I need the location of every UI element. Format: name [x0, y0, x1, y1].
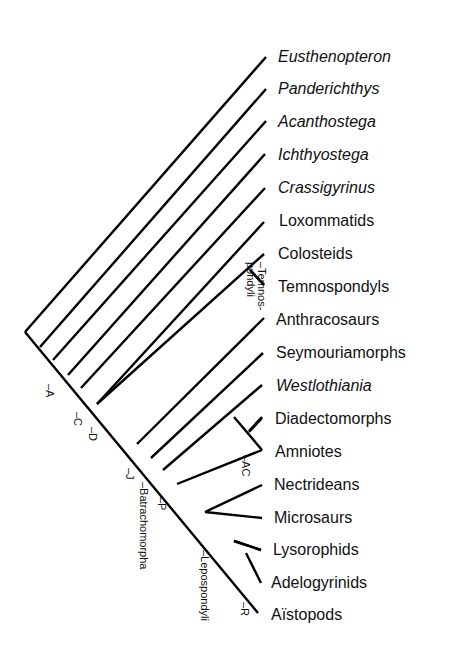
node-label: –Batrachomorpha: [138, 482, 150, 569]
node-label: –D: [87, 427, 99, 441]
branch-line: [137, 318, 264, 444]
node-label: –Temnos-: [256, 262, 268, 310]
taxon-label: Crassigyrinus: [278, 179, 375, 197]
taxon-label: Westlothiania: [276, 377, 372, 395]
branch-line: [205, 485, 262, 512]
node-label: –C: [72, 412, 84, 426]
branch-line: [53, 121, 266, 360]
branch-line: [151, 353, 263, 458]
branch-line: [249, 418, 262, 432]
node-label: –AC: [240, 455, 252, 476]
branch-line: [97, 254, 264, 404]
taxon-label: Microsaurs: [274, 509, 352, 527]
node-label: –J: [124, 468, 136, 480]
taxon-label: Loxommatids: [279, 212, 374, 230]
taxon-label: Nectrideans: [274, 476, 359, 494]
node-label: –R: [239, 602, 251, 616]
taxon-label: Adelogyrinids: [271, 574, 367, 592]
branch-line: [81, 188, 265, 388]
taxon-label: Panderichthys: [278, 80, 379, 98]
node-label: pondyli: [245, 262, 257, 297]
taxon-label: Acanthostega: [278, 113, 376, 131]
node-label: –A: [44, 384, 56, 397]
branch-line: [234, 541, 261, 550]
node-label: –P: [156, 497, 168, 510]
taxon-label: Amniotes: [275, 443, 342, 461]
node-label: –Lepospondyli: [199, 550, 211, 621]
taxon-label: Ichthyostega: [278, 146, 369, 164]
taxon-label: Diadectomorphs: [275, 410, 392, 428]
taxon-label: Aïstopods: [271, 606, 342, 624]
taxon-label: Seymouriamorphs: [276, 344, 406, 362]
taxon-label: Colosteids: [278, 245, 353, 263]
branch-line: [205, 512, 262, 518]
taxon-label: Eusthenopteron: [278, 48, 391, 66]
branch-line: [25, 332, 258, 613]
taxon-label: Anthracosaurs: [276, 311, 379, 329]
taxon-label: Temnospondyls: [278, 278, 389, 296]
taxon-label: Lysorophids: [273, 541, 359, 559]
branch-line: [246, 553, 261, 583]
cladogram-lines: [0, 0, 461, 662]
